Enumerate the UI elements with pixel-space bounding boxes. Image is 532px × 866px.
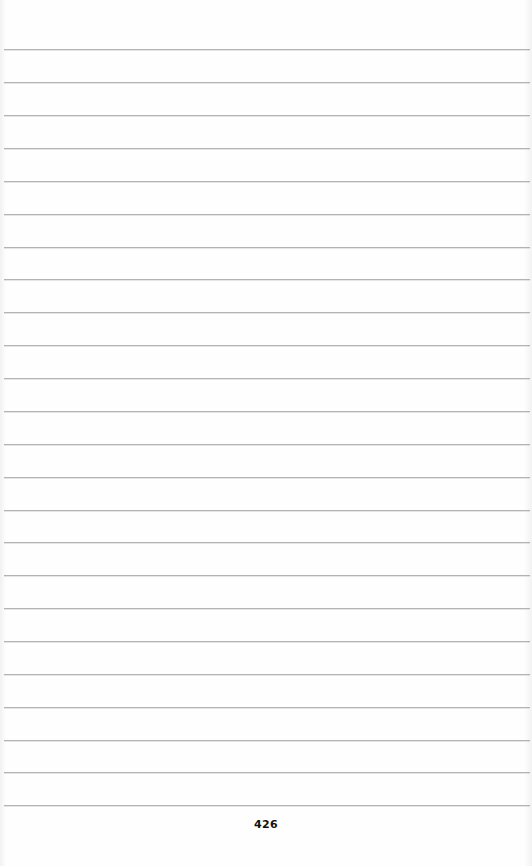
ruled-line [4, 608, 530, 609]
ruled-line [4, 707, 530, 708]
notebook-page: 426 [0, 0, 532, 866]
ruled-line [4, 575, 530, 576]
page-right-edge-shadow [524, 0, 532, 866]
ruled-line [4, 279, 530, 280]
ruled-line [4, 115, 530, 116]
ruled-line [4, 345, 530, 346]
ruled-line [4, 444, 530, 445]
page-number: 426 [0, 818, 532, 831]
ruled-line [4, 542, 530, 543]
ruled-line [4, 82, 530, 83]
ruled-line [4, 674, 530, 675]
ruled-line [4, 378, 530, 379]
ruled-line [4, 148, 530, 149]
page-left-edge-shadow [0, 0, 6, 866]
ruled-line [4, 312, 530, 313]
ruled-line [4, 411, 530, 412]
ruled-line [4, 805, 530, 806]
ruled-line [4, 247, 530, 248]
ruled-line [4, 740, 530, 741]
ruled-line [4, 49, 530, 50]
ruled-line [4, 510, 530, 511]
ruled-line [4, 477, 530, 478]
ruled-line [4, 772, 530, 773]
ruled-line [4, 641, 530, 642]
ruled-line [4, 214, 530, 215]
ruled-line [4, 181, 530, 182]
